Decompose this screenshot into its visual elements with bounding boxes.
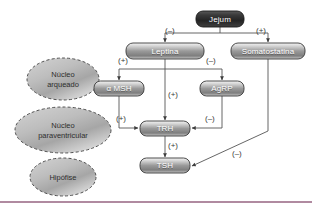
region-label-nucleo-paraventricular-line2: paraventricular	[15, 131, 111, 141]
region-label-nucleo-paraventricular: Núcleo paraventricular	[15, 121, 111, 140]
sign-jejum-to-somatostatina: (+)	[256, 27, 266, 35]
sign-amsh-to-trh: (+)	[116, 115, 126, 123]
figure-canvas: Jejum Leptina Somatostatina α MSH AgRP T…	[0, 0, 312, 205]
sign-leptina-to-trh: (+)	[168, 91, 178, 99]
edge-amsh-to-trh	[119, 96, 138, 128]
region-label-hipofise: Hipófise	[30, 173, 96, 183]
edge-somatostatina-to-tsh	[192, 59, 268, 166]
node-shape-trh	[140, 121, 190, 136]
node-shape-agrp	[200, 81, 244, 96]
region-label-nucleo-arqueado-line2: arqueado	[27, 80, 99, 90]
bottom-divider-rule	[0, 201, 312, 203]
node-shape-jejum	[196, 11, 244, 27]
region-label-hipofise-line1: Hipófise	[30, 173, 96, 183]
sign-somatostatina-to-tsh: (–)	[232, 150, 242, 158]
sign-agrp-to-trh: (–)	[205, 115, 215, 123]
node-shape-leptina	[126, 43, 204, 59]
region-label-nucleo-arqueado-line1: Núcleo	[27, 70, 99, 80]
node-shapes	[94, 11, 305, 173]
node-shape-tsh	[140, 158, 190, 173]
sign-trh-to-tsh: (+)	[168, 142, 178, 150]
sign-leptina-to-agrp: (–)	[206, 57, 216, 65]
region-label-nucleo-arqueado: Núcleo arqueado	[27, 70, 99, 89]
edge-agrp-to-trh	[192, 96, 222, 128]
sign-jejum-to-leptina: (–)	[165, 27, 175, 35]
sign-leptina-to-amsh: (+)	[118, 57, 128, 65]
node-shape-amsh	[94, 81, 144, 96]
node-shape-somatostatina	[231, 43, 305, 59]
region-label-nucleo-paraventricular-line1: Núcleo	[15, 121, 111, 131]
